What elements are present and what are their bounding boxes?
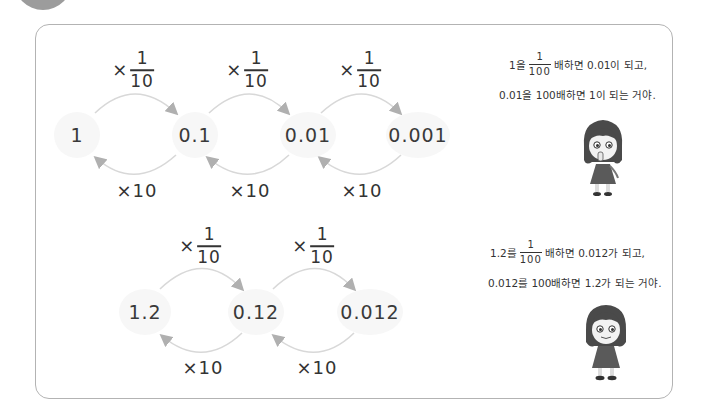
forward-arc bbox=[321, 94, 400, 113]
op-times-one-tenth: × 110 bbox=[179, 226, 221, 266]
node-0-001: 0.001 bbox=[386, 112, 450, 158]
speech-line: 1을 1100 배하면 0.01이 되고, bbox=[509, 52, 647, 77]
op-times-one-tenth: × 110 bbox=[339, 50, 381, 90]
node-0-01: 0.01 bbox=[280, 112, 336, 158]
op-times-ten: ×10 bbox=[117, 180, 158, 201]
speech-line: 1.2를 1100 배하면 0.012가 되고, bbox=[490, 240, 645, 265]
fraction: 110 bbox=[130, 50, 154, 90]
backward-arc bbox=[96, 155, 176, 174]
op-times-one-tenth: × 110 bbox=[112, 50, 154, 90]
op-times-ten: ×10 bbox=[183, 357, 224, 378]
speech-line: 0.01을 100배하면 1이 되는 거야. bbox=[499, 87, 656, 102]
node-0-012: 0.012 bbox=[337, 289, 403, 335]
forward-arc bbox=[273, 269, 354, 290]
backward-arc bbox=[162, 333, 242, 352]
op-times-one-tenth: × 110 bbox=[292, 226, 334, 266]
backward-arc bbox=[208, 155, 289, 174]
forward-arc bbox=[160, 269, 242, 290]
backward-arc bbox=[320, 155, 401, 174]
node-1: 1 bbox=[54, 112, 100, 158]
fraction: 1100 bbox=[529, 52, 551, 77]
forward-arc bbox=[209, 94, 288, 113]
node-0-12: 0.12 bbox=[228, 289, 284, 335]
fraction: 110 bbox=[310, 226, 334, 266]
fraction: 110 bbox=[197, 226, 221, 266]
op-times-one-tenth: × 110 bbox=[226, 50, 268, 90]
forward-arc bbox=[95, 94, 176, 113]
op-times-ten: ×10 bbox=[230, 180, 271, 201]
node-0-1: 0.1 bbox=[172, 112, 218, 158]
op-times-ten: ×10 bbox=[297, 357, 338, 378]
node-1-2: 1.2 bbox=[119, 289, 171, 335]
girl-character-thinking-icon bbox=[578, 116, 628, 198]
fraction: 110 bbox=[244, 50, 268, 90]
fraction: 110 bbox=[357, 50, 381, 90]
fraction: 1100 bbox=[520, 240, 542, 265]
backward-arc bbox=[274, 333, 354, 352]
op-times-ten: ×10 bbox=[342, 180, 383, 201]
speech-line: 0.012를 100배하면 1.2가 되는 거야. bbox=[488, 275, 662, 290]
girl-character-standing-icon bbox=[582, 302, 630, 384]
